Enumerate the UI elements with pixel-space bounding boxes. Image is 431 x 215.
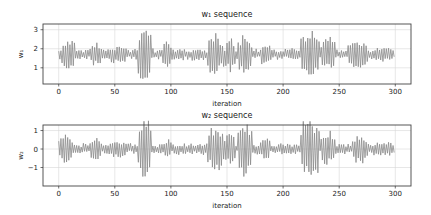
x-tick-label: 0	[56, 190, 60, 198]
figure: 050100150200250300 123 w₁ sequence itera…	[0, 0, 431, 215]
w1-ylabel: w₁	[17, 50, 25, 59]
x-tick-label: 300	[389, 190, 402, 198]
w2-title: w₂ sequence	[202, 111, 253, 120]
x-tick-label: 50	[110, 88, 119, 96]
x-tick-label: 150	[220, 190, 233, 198]
x-tick-label: 50	[110, 190, 119, 198]
y-tick-label: 2	[34, 45, 38, 53]
w2-ylabel: w₂	[17, 151, 25, 160]
x-tick-label: 250	[333, 190, 346, 198]
x-tick-label: 150	[220, 88, 233, 96]
x-tick-label: 100	[164, 88, 177, 96]
x-tick-label: 0	[56, 88, 60, 96]
y-tick-label: 3	[34, 26, 38, 34]
y-tick-label: 1	[34, 127, 38, 135]
x-tick-label: 100	[164, 190, 177, 198]
x-tick-label: 300	[389, 88, 402, 96]
y-tick-label: 1	[34, 64, 38, 72]
w1-title: w₁ sequence	[202, 10, 253, 19]
y-tick-label: 0	[34, 146, 38, 154]
x-tick-label: 200	[276, 190, 289, 198]
w2-xlabel: iteration	[212, 202, 242, 210]
w1-xlabel: iteration	[212, 100, 242, 108]
x-tick-label: 200	[276, 88, 289, 96]
x-tick-label: 250	[333, 88, 346, 96]
y-tick-label: −1	[28, 164, 38, 172]
